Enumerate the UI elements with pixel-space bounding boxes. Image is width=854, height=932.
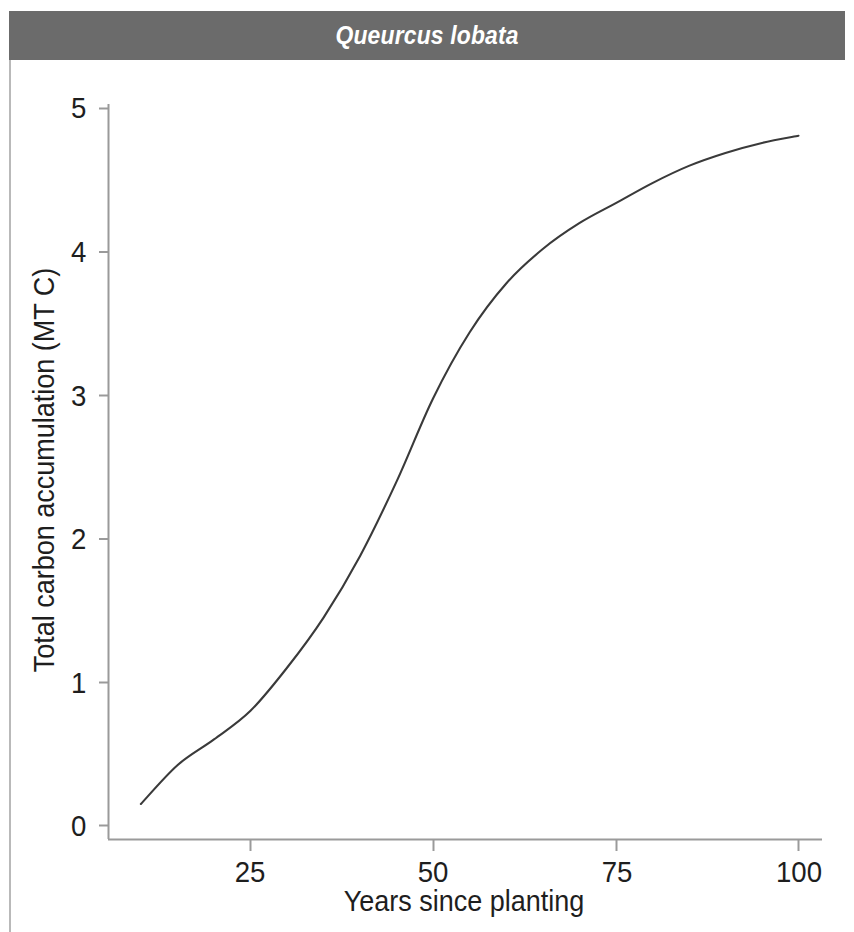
y-tick-label-5: 5 bbox=[50, 91, 87, 125]
x-tick-label-75: 75 bbox=[580, 855, 654, 889]
chart-plot-svg bbox=[0, 0, 854, 932]
x-tick-label-100: 100 bbox=[762, 855, 836, 889]
carbon-accumulation-curve bbox=[141, 136, 799, 804]
y-tick-label-0: 0 bbox=[50, 809, 87, 843]
plot-area: 5 4 3 2 1 0 25 50 75 100 Years since pla… bbox=[0, 0, 854, 932]
x-tick-label-25: 25 bbox=[213, 855, 287, 889]
y-axis-ticks bbox=[99, 109, 108, 826]
chart-page: Queurcus lobata bbox=[0, 0, 854, 932]
x-axis-ticks bbox=[251, 839, 799, 851]
y-axis-title: Total carbon accumulation (MT C) bbox=[27, 268, 61, 673]
y-tick-label-4: 4 bbox=[50, 235, 87, 269]
curve-gap-artifact bbox=[638, 201, 644, 207]
x-axis-title: Years since planting bbox=[344, 884, 585, 918]
